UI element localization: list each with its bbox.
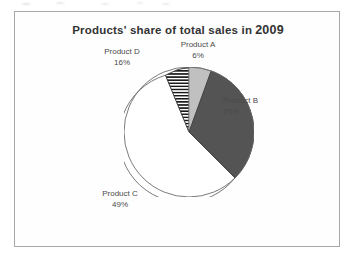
pie-label-product-d: Product D 16% bbox=[91, 46, 153, 68]
pie-label-product-c: Product C 49% bbox=[89, 188, 151, 210]
pie-label-product-d-name: Product D bbox=[104, 47, 140, 56]
pie-label-product-a-name: Product A bbox=[181, 40, 216, 49]
pie-label-product-b: Product B 29% bbox=[223, 95, 293, 117]
pie-label-product-c-value: 49% bbox=[89, 199, 151, 210]
pie-label-product-d-value: 16% bbox=[91, 57, 153, 68]
pie-svg bbox=[124, 67, 254, 197]
pie-label-product-b-value: 29% bbox=[223, 106, 293, 117]
chart-frame: Products' share of total sales in2009 Pr… bbox=[14, 11, 340, 247]
pie-label-product-c-name: Product C bbox=[102, 189, 138, 198]
scan-artifact-strip bbox=[0, 0, 354, 9]
pie-label-product-b-name: Product B bbox=[223, 96, 258, 105]
pie-label-product-a-value: 6% bbox=[167, 50, 229, 61]
pie-label-product-a: Product A 6% bbox=[167, 39, 229, 61]
